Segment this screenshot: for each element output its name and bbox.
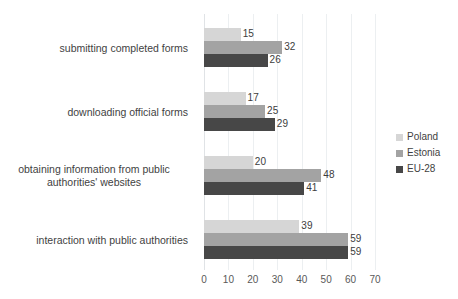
x-tick-label: 60: [345, 274, 356, 286]
bar-poland: [204, 28, 241, 41]
category-label: obtaining information from public author…: [0, 163, 188, 189]
bar-row: 32: [204, 41, 375, 54]
bar-group: 153226: [204, 28, 375, 68]
bar-value-label: 26: [270, 53, 281, 66]
x-tick-label: 50: [321, 274, 332, 286]
legend-swatch-icon: [396, 166, 403, 173]
bar-row: 29: [204, 118, 375, 131]
bar-eu28: [204, 118, 275, 131]
bar-poland: [204, 220, 299, 233]
bar-chart: 153226172529204841395959 submitting comp…: [0, 0, 458, 299]
legend-item-eu-28[interactable]: EU-28: [396, 162, 456, 176]
bar-eu28: [204, 54, 268, 67]
legend-swatch-icon: [396, 150, 403, 157]
bar-value-label: 59: [350, 232, 361, 245]
bar-value-label: 17: [248, 91, 259, 104]
bar-eu28: [204, 246, 348, 259]
bar-row: 26: [204, 54, 375, 67]
category-axis-labels: submitting completed formsdownloading of…: [0, 14, 196, 270]
bar-value-label: 15: [243, 27, 254, 40]
category-label: submitting completed forms: [0, 42, 188, 55]
bar-value-label: 41: [306, 181, 317, 194]
category-label: downloading official forms: [0, 106, 188, 119]
bar-group: 204841: [204, 156, 375, 196]
gridline-70: [375, 14, 376, 270]
plot-area: 153226172529204841395959: [204, 14, 375, 270]
bar-eu28: [204, 182, 304, 195]
bar-group: 395959: [204, 220, 375, 260]
bar-value-label: 20: [255, 155, 266, 168]
bar-value-label: 48: [323, 168, 334, 181]
x-tick-label: 40: [296, 274, 307, 286]
bar-estonia: [204, 105, 265, 118]
bar-value-label: 59: [350, 245, 361, 258]
bar-poland: [204, 92, 246, 105]
bar-value-label: 29: [277, 117, 288, 130]
bar-group: 172529: [204, 92, 375, 132]
legend-label: Poland: [407, 131, 438, 143]
x-tick-label: 70: [369, 274, 380, 286]
legend-item-poland[interactable]: Poland: [396, 130, 456, 144]
x-tick-label: 10: [223, 274, 234, 286]
legend-item-estonia[interactable]: Estonia: [396, 146, 456, 160]
legend-swatch-icon: [396, 134, 403, 141]
x-axis: 010203040506070: [204, 270, 375, 290]
bar-poland: [204, 156, 253, 169]
bar-row: 59: [204, 246, 375, 259]
bar-row: 48: [204, 169, 375, 182]
bar-value-label: 39: [301, 219, 312, 232]
x-tick-label: 30: [272, 274, 283, 286]
legend: PolandEstoniaEU-28: [396, 130, 456, 178]
legend-label: Estonia: [407, 147, 440, 159]
category-label: interaction with public authorities: [0, 234, 188, 247]
bar-row: 25: [204, 105, 375, 118]
bar-groups: 153226172529204841395959: [204, 14, 375, 270]
bar-row: 20: [204, 156, 375, 169]
bar-row: 41: [204, 182, 375, 195]
bar-estonia: [204, 169, 321, 182]
bar-value-label: 25: [267, 104, 278, 117]
bar-row: 17: [204, 92, 375, 105]
bar-estonia: [204, 233, 348, 246]
x-tick-label: 0: [201, 274, 207, 286]
x-tick-label: 20: [247, 274, 258, 286]
legend-label: EU-28: [407, 163, 435, 175]
bar-value-label: 32: [284, 40, 295, 53]
